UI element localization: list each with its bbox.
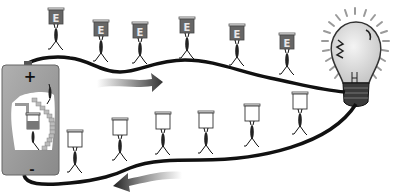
energy-carrier-figure [93,20,109,62]
empty-carrier-figure [198,111,214,154]
empty-carrier-figure [244,104,260,147]
current-direction-bottom-arrow [113,172,182,192]
battery-positive-label: + [24,68,37,86]
empty-carrier-figure [155,112,171,155]
circuit-illustration: E [0,0,402,193]
circuit-diagram: Electric circuit energy carriers [0,0,402,193]
energy-carrier-figure [132,22,148,64]
battery-negative-label: - [29,162,34,177]
bulb-icon [331,22,381,83]
energy-carrier-figure [48,8,64,50]
energy-carrier-figure [229,24,245,66]
empty-carrier-figure [112,118,128,161]
empty-carrier-figure [67,130,83,173]
energy-carrier-figure [179,17,195,59]
battery: + - [2,61,59,177]
wire-top [28,57,345,92]
energy-carrier-figure [279,33,295,75]
empty-carrier-figure [292,92,308,135]
bulb-base [343,83,369,107]
energy-carriers-top [48,8,295,75]
current-direction-top-arrow [97,73,163,92]
